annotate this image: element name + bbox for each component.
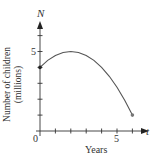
y-tick-label-5: 5: [31, 47, 36, 57]
chart-canvas: [0, 0, 154, 161]
x-tick-label-5: 5: [114, 134, 119, 144]
y-axis-label-line2: (millions): [12, 35, 23, 135]
x-tick-label-0: 0: [33, 134, 38, 144]
y-axis-label: Number of children (millions): [2, 35, 23, 135]
axes: [36, 27, 143, 136]
y-axis-label-line1: Number of children: [2, 35, 13, 135]
endpoint-dot: [38, 66, 42, 70]
endpoint-dot: [131, 113, 135, 117]
y-axis-variable: N: [37, 8, 44, 18]
y-axis-arrow-icon: [37, 21, 43, 29]
data-curve: [40, 52, 132, 116]
x-axis-variable: t: [146, 126, 149, 136]
x-axis-label: Years: [85, 145, 107, 155]
